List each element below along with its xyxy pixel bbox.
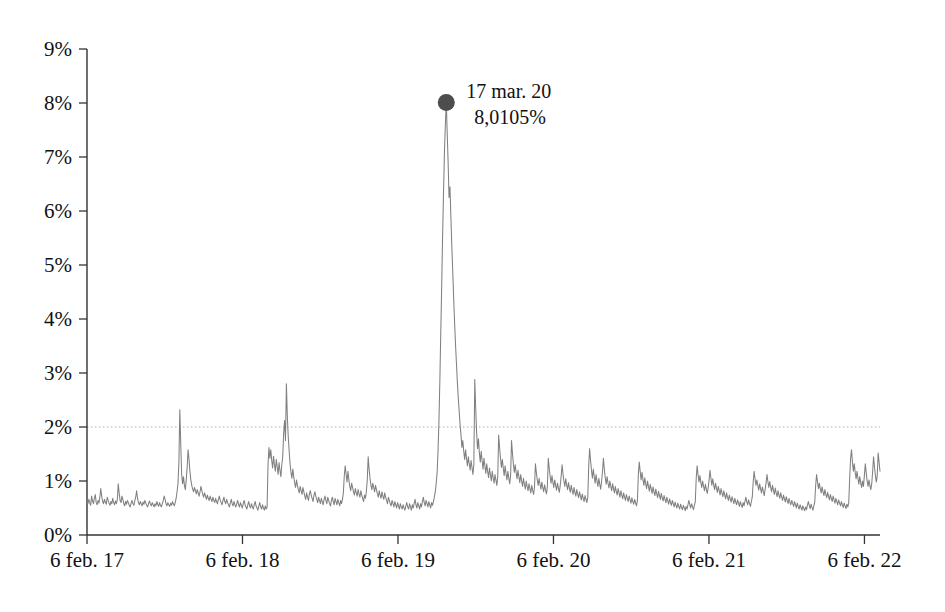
y-tick-label: 1% [44,469,72,493]
y-tick-label: 0% [44,523,72,547]
y-axis-ticks [79,49,87,535]
x-tick-label: 6 feb. 19 [361,548,435,572]
x-tick-label: 6 feb. 18 [205,548,279,572]
chart-container: 0%1%2%3%4%5%6%7%8%9% 6 feb. 176 feb. 186… [0,0,945,612]
y-tick-label: 7% [44,145,72,169]
y-tick-label: 3% [44,361,72,385]
x-tick-label: 6 feb. 17 [50,548,124,572]
line-chart: 0%1%2%3%4%5%6%7%8%9% 6 feb. 176 feb. 186… [0,0,945,612]
y-tick-label: 4% [44,307,72,331]
x-tick-label: 6 feb. 21 [672,548,746,572]
peak-marker-icon [438,94,455,111]
x-axis-labels: 6 feb. 176 feb. 186 feb. 196 feb. 206 fe… [50,548,902,572]
y-tick-label: 2% [44,415,72,439]
y-tick-label: 9% [44,37,72,61]
y-tick-label: 5% [44,253,72,277]
annotation-value: 8,0105% [474,106,546,128]
x-tick-label: 6 feb. 22 [827,548,901,572]
annotation-date: 17 mar. 20 [466,80,551,102]
y-axis-labels: 0%1%2%3%4%5%6%7%8%9% [44,37,72,547]
x-tick-label: 6 feb. 20 [516,548,590,572]
x-axis-ticks [87,535,864,544]
data-series-line [87,102,880,510]
y-tick-label: 8% [44,91,72,115]
y-tick-label: 6% [44,199,72,223]
